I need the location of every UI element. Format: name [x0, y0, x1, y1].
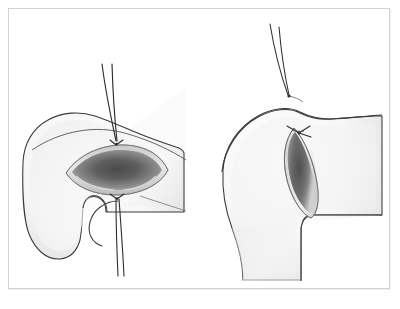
right-panel-figure: [222, 24, 382, 281]
suture-thread-right: [270, 24, 303, 102]
surgical-illustration: [0, 0, 400, 309]
suture-tail-right: [289, 96, 303, 102]
suture-strand-e: [270, 24, 288, 95]
limb-outline-right: [301, 215, 382, 281]
left-panel-figure: [16, 64, 186, 276]
illustration-root: Surgical wound closure illustration: [0, 0, 400, 309]
